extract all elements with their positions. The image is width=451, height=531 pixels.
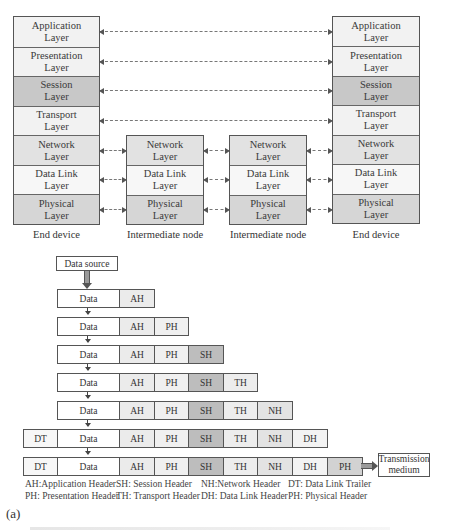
layer-suffix: Layer [44, 180, 68, 192]
encap-cell-dt: DT [23, 429, 58, 448]
left-end-application-layer: ApplicationLayer [14, 17, 99, 47]
encap-cell-dt: DT [23, 457, 58, 476]
layer-name: Application [351, 20, 401, 32]
legend-ph-presentation: PH: Presentation Header [25, 491, 119, 501]
layer-suffix: Layer [44, 121, 68, 133]
end-device-left-caption: End device [5, 229, 108, 240]
transmission-medium-line1: Transmission [379, 454, 430, 465]
layer-suffix: Layer [256, 180, 280, 192]
encap-cell-data: Data [57, 457, 120, 476]
layer-name: Physical [250, 198, 286, 210]
data-source-box: Data source [56, 256, 118, 271]
layer-name: Transport [356, 108, 396, 120]
down-arrow-icon [87, 336, 88, 342]
inter2-physical-layer: PhysicalLayer [230, 195, 306, 224]
encap-cell-data: Data [57, 345, 120, 364]
legend-ph-physical: PH: Physical Header [288, 491, 367, 501]
layer-suffix: Layer [364, 120, 388, 132]
layer-suffix: Layer [364, 62, 388, 74]
layer-name: Transport [36, 109, 76, 121]
encap-cell-sh: SH [188, 373, 224, 392]
peer-arrow-transport [100, 120, 332, 121]
right-end-network-layer: NetworkLayer [333, 135, 419, 164]
right-end-session-layer: SessionLayer [333, 76, 419, 105]
encap-cell-sh: SH [188, 429, 224, 448]
encap-cell-data: Data [57, 289, 120, 308]
down-arrow-icon [87, 392, 88, 398]
inter2-network-layer: NetworkLayer [230, 136, 306, 165]
legend-nh: NH:Network Header [201, 479, 280, 489]
end-device-right-caption: End device [324, 229, 428, 240]
encap-cell-ah: AH [119, 401, 155, 420]
layer-suffix: Layer [364, 209, 388, 221]
layer-suffix: Layer [364, 179, 388, 191]
layer-name: Network [38, 139, 75, 151]
data-source-down-arrow-icon [84, 271, 90, 283]
encap-cell-sh: SH [188, 401, 224, 420]
layer-suffix: Layer [364, 91, 388, 103]
down-arrow-icon [87, 308, 88, 314]
intermediate-node-1-stack: NetworkLayerData LinkLayerPhysicalLayer [126, 135, 204, 225]
hop-arrow-network-2 [204, 150, 229, 151]
legend-sh: SH: Session Header [116, 479, 192, 489]
left-end-network-layer: NetworkLayer [14, 135, 99, 165]
layer-suffix: Layer [256, 151, 280, 163]
encap-cell-data: Data [57, 429, 120, 448]
encap-cell-th: TH [223, 373, 258, 392]
encap-cell-th: TH [223, 401, 258, 420]
encap-cell-ph: PH [154, 317, 189, 336]
layer-name: Physical [358, 197, 394, 209]
encap-cell-ph: PH [154, 373, 189, 392]
legend-dt: DT: Data Link Trailer [288, 479, 371, 489]
left-end-data-link-layer: Data LinkLayer [14, 165, 99, 195]
inter1-physical-layer: PhysicalLayer [127, 195, 203, 224]
left-end-presentation-layer: PresentationLayer [14, 47, 99, 77]
encap-cell-ah: AH [119, 429, 155, 448]
right-end-physical-layer: PhysicalLayer [333, 194, 419, 223]
encap-cell-ah: AH [119, 457, 155, 476]
clipped-caption-line [30, 527, 390, 530]
layer-suffix: Layer [153, 210, 177, 222]
transmission-medium-line2: medium [388, 465, 419, 476]
layer-name: Data Link [35, 168, 77, 180]
layer-name: Presentation [31, 50, 83, 62]
encap-cell-th: TH [223, 457, 258, 476]
layer-name: Data Link [144, 168, 186, 180]
legend-ah: AH:Application Header [25, 479, 116, 489]
encap-cell-data: Data [57, 401, 120, 420]
encap-cell-sh: SH [188, 345, 224, 364]
encap-cell-nh: NH [257, 457, 293, 476]
hop-arrow-physical-2 [204, 209, 229, 210]
inter1-data-link-layer: Data LinkLayer [127, 165, 203, 194]
layer-name: Physical [147, 198, 183, 210]
layer-suffix: Layer [44, 91, 68, 103]
end-device-right-stack: ApplicationLayerPresentationLayerSession… [332, 16, 420, 224]
layer-name: Session [360, 79, 392, 91]
hop-arrow-datalink-1 [100, 179, 126, 180]
encap-cell-ah: AH [119, 289, 155, 308]
hop-arrow-network-3 [307, 150, 332, 151]
layer-name: Application [32, 20, 82, 32]
hop-arrow-datalink-3 [307, 179, 332, 180]
layer-name: Session [40, 79, 72, 91]
hop-arrow-physical-3 [307, 209, 332, 210]
encap-cell-nh: NH [257, 429, 293, 448]
layer-suffix: Layer [256, 210, 280, 222]
intermediate-node-1-caption: Intermediate node [115, 229, 215, 240]
peer-arrow-application [100, 31, 332, 32]
encap-cell-dh: DH [292, 429, 328, 448]
layer-name: Network [358, 138, 395, 150]
legend-th: TH: Transport Header [116, 491, 200, 501]
layer-name: Network [250, 139, 287, 151]
hop-arrow-physical-1 [100, 209, 126, 210]
encap-cell-sh: SH [188, 457, 224, 476]
encap-cell-ph: PH [154, 345, 189, 364]
encap-cell-data: Data [57, 317, 120, 336]
left-end-session-layer: SessionLayer [14, 76, 99, 106]
layer-name: Physical [39, 198, 75, 210]
transmission-medium-box: Transmission medium [378, 453, 430, 477]
layer-suffix: Layer [153, 180, 177, 192]
encap-cell-ah: AH [119, 373, 155, 392]
layer-name: Data Link [355, 167, 397, 179]
encap-cell-ah: AH [119, 317, 155, 336]
